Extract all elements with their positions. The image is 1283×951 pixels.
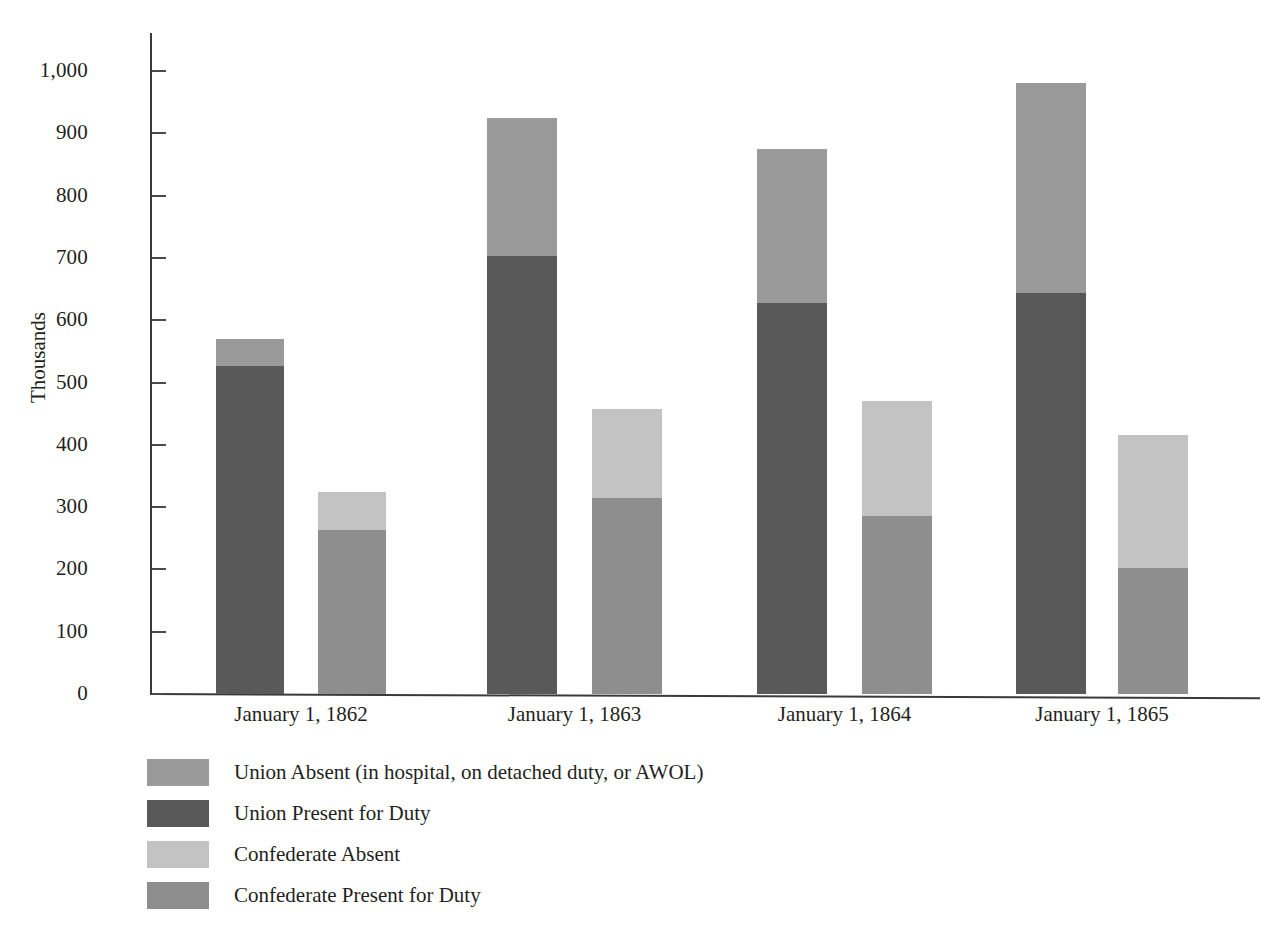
bar-segment[interactable] [1118,568,1188,694]
x-axis-label-2: January 1, 1864 [735,702,955,727]
legend-item[interactable]: Union Present for Duty [147,793,1047,834]
y-tick-500 [152,382,166,384]
y-tick-label-1000: 1,000 [0,60,88,81]
bar-segment[interactable] [487,256,557,694]
y-axis-title: Thousands [26,258,51,458]
legend-label: Union Absent (in hospital, on detached d… [234,762,703,783]
chart-root: Thousands 01002003004005006007008009001,… [0,0,1283,951]
y-tick-600 [152,319,166,321]
y-tick-label-600: 600 [0,309,88,330]
y-tick-label-700: 700 [0,247,88,268]
legend-swatch-icon [147,800,209,827]
bar-segment[interactable] [862,516,932,694]
legend-swatch-icon [147,759,209,786]
legend-item[interactable]: Union Absent (in hospital, on detached d… [147,752,1047,793]
bar-union-3[interactable] [1016,0,1086,720]
y-tick-0 [152,693,166,695]
legend-item[interactable]: Confederate Present for Duty [147,875,1047,916]
bar-confederate-3[interactable] [1118,0,1188,720]
bar-segment[interactable] [862,401,932,517]
bar-confederate-0[interactable] [318,0,386,720]
legend-swatch-icon [147,841,209,868]
bar-segment[interactable] [216,339,284,366]
y-tick-label-100: 100 [0,621,88,642]
x-axis-line [150,693,1260,699]
bar-union-0[interactable] [216,0,284,720]
bar-segment[interactable] [757,303,827,694]
bar-union-2[interactable] [757,0,827,720]
bar-segment[interactable] [757,149,827,304]
y-tick-800 [152,195,166,197]
legend-label: Confederate Absent [234,844,400,865]
y-tick-400 [152,444,166,446]
bar-union-1[interactable] [487,0,557,720]
legend-swatch-icon [147,882,209,909]
x-axis-label-3: January 1, 1865 [992,702,1212,727]
y-tick-200 [152,568,166,570]
bar-segment[interactable] [592,498,662,694]
x-axis-label-1: January 1, 1863 [465,702,685,727]
plot-area: Thousands 01002003004005006007008009001,… [0,0,1283,720]
legend-item[interactable]: Confederate Absent [147,834,1047,875]
bar-segment[interactable] [487,118,557,256]
bar-segment[interactable] [1016,293,1086,694]
y-tick-label-0: 0 [0,683,88,704]
y-tick-label-900: 900 [0,122,88,143]
x-axis-label-0: January 1, 1862 [191,702,411,727]
y-tick-label-500: 500 [0,372,88,393]
y-tick-label-400: 400 [0,434,88,455]
legend-label: Confederate Present for Duty [234,885,481,906]
y-tick-label-300: 300 [0,496,88,517]
y-tick-900 [152,132,166,134]
bar-segment[interactable] [318,492,386,531]
y-tick-label-800: 800 [0,185,88,206]
chart-legend: Union Absent (in hospital, on detached d… [147,752,1047,916]
bar-confederate-1[interactable] [592,0,662,720]
bar-segment[interactable] [1016,83,1086,293]
bar-segment[interactable] [592,409,662,498]
legend-label: Union Present for Duty [234,803,431,824]
y-tick-700 [152,257,166,259]
bar-segment[interactable] [216,366,284,694]
y-tick-100 [152,631,166,633]
bar-confederate-2[interactable] [862,0,932,720]
bar-segment[interactable] [1118,435,1188,568]
y-tick-300 [152,506,166,508]
y-tick-label-200: 200 [0,558,88,579]
y-tick-1000 [152,70,166,72]
bar-segment[interactable] [318,530,386,694]
